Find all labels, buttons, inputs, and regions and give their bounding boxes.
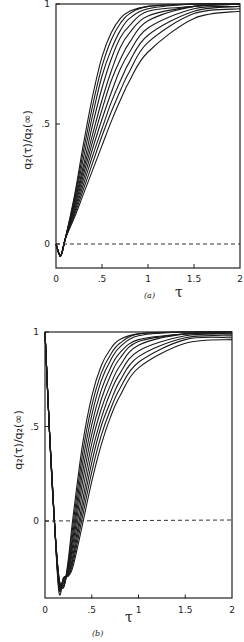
x-tick-label: 1 xyxy=(136,605,142,615)
x-tick-label: 1.5 xyxy=(178,605,192,615)
y-tick-label: .5 xyxy=(30,422,39,432)
x-tick-label: 2 xyxy=(229,605,235,615)
data-series-line xyxy=(45,332,232,587)
y-tick-label: 0 xyxy=(33,516,39,526)
x-tick-label: .5 xyxy=(87,605,96,615)
chart-b-caption: (b) xyxy=(92,629,103,638)
chart-b-y-label: q₂(τ)/q₂(∞) xyxy=(12,410,25,469)
chart-b-plot: 0.511.52 0.51 τ (b) q₂(τ)/q₂(∞) xyxy=(0,0,244,642)
chart-b-curves xyxy=(45,332,232,595)
chart-b-x-label: τ xyxy=(125,609,133,625)
x-tick-label: 0 xyxy=(42,605,48,615)
y-tick-label: 1 xyxy=(33,327,39,337)
chart-panel-b: 0.511.52 0.51 τ (b) q₂(τ)/q₂(∞) xyxy=(0,0,244,642)
